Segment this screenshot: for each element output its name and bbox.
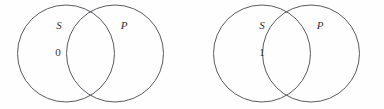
venn-diagram-right: S P 1 [192,0,384,109]
venn-diagram-left: S P 0 [0,0,192,109]
region-marker-s-only: 0 [55,46,61,58]
set-label-p: P [316,19,324,31]
venn-diagram-figure: S P 0 S P 1 [0,0,384,109]
region-marker-s-only: 1 [259,46,265,58]
set-label-s: S [56,19,62,31]
set-label-s: S [259,19,265,31]
set-label-p: P [120,19,128,31]
